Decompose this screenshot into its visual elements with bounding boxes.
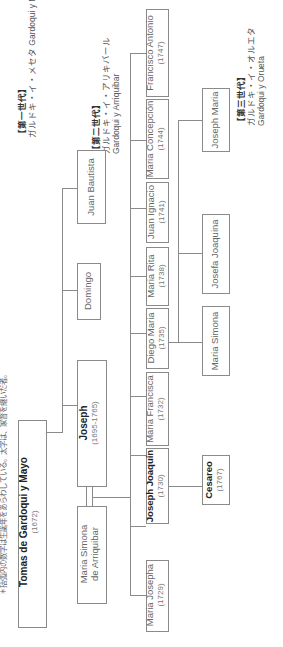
person-label-maria-concepcion: Maria Concepción(1744) (145, 99, 169, 179)
person-label-maria-josepha: Maria Josepha(1729) (145, 559, 169, 631)
gen1-kana: ガルドキ・イ・メセタ (27, 48, 37, 138)
connector (130, 53, 131, 596)
connector (62, 188, 77, 189)
marriage-line (86, 487, 87, 507)
person-label-diego-maria: Diego Maria(1735) (146, 308, 170, 369)
person-label-cesareo: Cesareo(1767) (204, 455, 228, 505)
footnote: ＊括弧内の数字は生誕年をあらわしている。太字は、家督を継いだ者。 (0, 328, 10, 638)
person-label-joseph-maria: Joseph Maria (210, 88, 222, 152)
gen2-latin: Gardoqui y Arriquibar (111, 74, 121, 154)
gen2-kana: ガルドキ・イ・アリキバール (101, 37, 111, 154)
gen3-kana: ガルドキ・イ・オルエタ (246, 27, 256, 126)
person-label-juan-bautista: Juan Bautista (86, 150, 98, 224)
person-label-domingo: Domingo (83, 263, 95, 320)
person-label-maria-rita: Maria Rita(1738) (146, 247, 170, 306)
connector (178, 342, 202, 343)
gen1-latin: Gardoqui y Meceta (27, 0, 37, 46)
person-label-maria-francisca: Maria Francisca(1732) (145, 372, 169, 446)
generation-label-2: 【第二世代】 ガルドキ・イ・アリキバール Gardoqui y Arriquib… (91, 24, 129, 154)
connector (178, 253, 202, 254)
person-label-spouse: Maria Simona de Arriquibar (79, 505, 105, 603)
connector (130, 526, 146, 527)
connector (47, 432, 63, 433)
connector (178, 120, 179, 343)
person-label-root: Tomas de Gardoqui y Mayo (1672) (18, 418, 46, 626)
gen1-heading: 【第一世代】 (17, 84, 27, 138)
connector (178, 120, 202, 121)
connector (93, 497, 130, 498)
connector (62, 188, 63, 433)
gen3-heading: 【第三世代】 (236, 72, 246, 126)
connector (168, 486, 202, 487)
generation-label-3: 【第三世代】 ガルドキ・イ・オルエタ Gardoqui y Orueta (236, 16, 274, 126)
connector (62, 290, 77, 291)
person-label-joseph: Joseph (1695-1765) (78, 360, 106, 487)
connector (62, 405, 77, 406)
gen2-heading: 【第二世代】 (91, 100, 101, 154)
person-label-maria-simona-gen3: Maria Simona (210, 306, 222, 376)
person-label-josefa-joaquina: Josefa Joaquina (210, 214, 222, 294)
person-label-juan-ignacio: Juan Ignacio(1741) (146, 182, 170, 243)
person-label-joseph-joaquin: Joseph Joaquín(1730) (145, 448, 169, 524)
generation-label-1: 【第一世代】 ガルドキ・イ・メセタ Gardoqui y Meceta (17, 8, 43, 138)
person-label-francisco-antonio: Francisco Antonio(1747) (145, 9, 169, 97)
gen3-latin: Gardoqui y Orueta (256, 56, 266, 126)
